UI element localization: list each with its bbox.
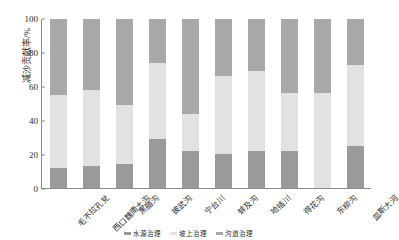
x-tick-label-9: 东柳沟 [334, 192, 359, 217]
bar-segment-1 [248, 151, 265, 188]
bar-4 [149, 19, 166, 188]
y-tick-label: 20 [29, 150, 42, 160]
bar-segment-2 [182, 114, 199, 151]
bar-segment-3 [281, 19, 298, 93]
bar-segment-2 [281, 93, 298, 150]
bar-1 [50, 19, 67, 188]
bar-3 [116, 19, 133, 188]
bar-segment-1 [83, 166, 100, 188]
bar-segment-2 [248, 71, 265, 150]
bar-5 [182, 19, 199, 188]
bar-7 [248, 19, 265, 188]
bar-segment-3 [149, 19, 166, 63]
legend-item-3: 沟道治理 [216, 228, 253, 238]
legend-label: 沟道治理 [225, 228, 253, 238]
bar-segment-3 [182, 19, 199, 114]
bar-segment-2 [149, 63, 166, 139]
bar-segment-2 [314, 93, 331, 188]
bar-segment-1 [149, 139, 166, 188]
y-tick-label: 0 [34, 184, 43, 194]
bar-segment-3 [215, 19, 232, 76]
bar-2 [83, 19, 100, 188]
x-tick-label-5: 宁台川 [202, 192, 227, 217]
bar-segment-2 [83, 90, 100, 166]
legend-item-1: 水源治理 [124, 228, 161, 238]
bar-segment-3 [83, 19, 100, 90]
x-tick-label-1: 毛不拉孔兌 [74, 192, 110, 228]
legend-swatch [170, 232, 177, 235]
y-tick-label: 40 [29, 116, 42, 126]
bar-segment-3 [50, 19, 67, 95]
x-tick-label-4: 披武沟 [169, 192, 194, 217]
bar-segment-1 [215, 154, 232, 188]
plot-area: 020406080100 [41, 19, 371, 189]
bar-6 [215, 19, 232, 188]
x-tick-label-6: 蚌及沟 [235, 192, 260, 217]
legend-item-2: 坡上治理 [170, 228, 207, 238]
bar-segment-1 [50, 168, 67, 188]
bar-segment-2 [215, 76, 232, 154]
bar-10 [347, 19, 364, 188]
bar-segment-1 [116, 164, 133, 188]
x-tick-label-8: 得花沟 [301, 192, 326, 217]
bar-segment-1 [281, 151, 298, 188]
y-tick-mark [42, 189, 45, 190]
y-tick-label: 60 [29, 82, 42, 92]
bar-series-group [42, 19, 371, 188]
bar-segment-2 [347, 65, 364, 146]
y-tick-label: 100 [25, 14, 43, 24]
bar-segment-1 [182, 151, 199, 188]
y-tick-label: 80 [29, 48, 42, 58]
x-tick-label-10: 皿斯大河 [369, 192, 399, 222]
bar-segment-3 [116, 19, 133, 105]
legend-swatch [216, 232, 223, 235]
bar-segment-2 [116, 105, 133, 164]
bar-segment-3 [314, 19, 331, 93]
bar-8 [281, 19, 298, 188]
x-tick-label-7: 哈插川 [268, 192, 293, 217]
legend-label: 水源治理 [133, 228, 161, 238]
legend-label: 坡上治理 [179, 228, 207, 238]
bar-segment-2 [50, 95, 67, 168]
chart-legend: 水源治理坡上治理沟道治理 [0, 228, 376, 238]
bar-segment-3 [248, 19, 265, 71]
bar-segment-1 [347, 146, 364, 188]
legend-swatch [124, 232, 131, 235]
bar-segment-3 [347, 19, 364, 65]
bar-9 [314, 19, 331, 188]
